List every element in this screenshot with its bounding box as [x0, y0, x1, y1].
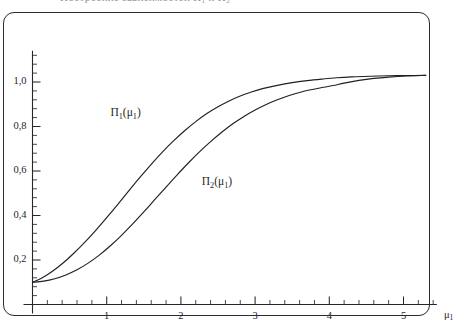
- y-tick-label: 0,4: [2, 209, 27, 220]
- y-tick-label: 0,2: [2, 253, 27, 264]
- x-tick-label: 3: [241, 310, 269, 321]
- pi2-label: Π2(μ1): [202, 175, 232, 187]
- x-tick-label: 4: [315, 310, 343, 321]
- y-axis-ticks: [33, 55, 41, 295]
- x-axis-ticks: [47, 297, 433, 305]
- x-tick-label: 5: [390, 310, 418, 321]
- y-tick-label: 0,6: [2, 164, 27, 175]
- x-tick-label: 2: [167, 310, 195, 321]
- pi1-label: Π1(μ1): [110, 106, 140, 118]
- x-axis-title: μ1: [444, 309, 453, 320]
- y-tick-label: 0,8: [2, 120, 27, 131]
- x-tick-label: 1: [93, 310, 121, 321]
- y-tick-label: 1,0: [2, 75, 27, 86]
